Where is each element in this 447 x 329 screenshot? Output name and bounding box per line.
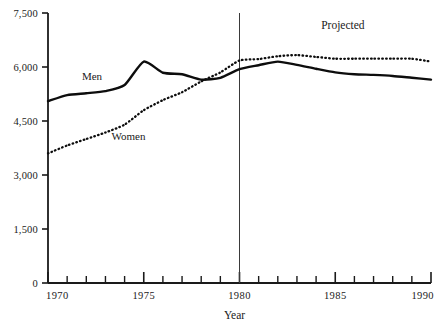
annotation-group: ProjectedMenWomen <box>82 19 365 142</box>
x-tick-label-1985: 1985 <box>324 290 347 301</box>
x-tick-label-group: 19701975198019851990 <box>46 290 434 301</box>
women-label: Women <box>111 130 145 142</box>
y-axis: 01,5003,0004,5006,0007,500 <box>13 8 48 289</box>
y-tick-label-3000: 3,000 <box>13 170 38 181</box>
y-tick-label-0: 0 <box>33 278 38 289</box>
y-tick-label-7500: 7,500 <box>13 8 38 19</box>
men-label: Men <box>82 70 103 82</box>
x-tick-label-1990: 1990 <box>411 290 434 301</box>
chart-figure: 01,5003,0004,5006,0007,500 1970197519801… <box>0 0 447 329</box>
x-tick-label-1975: 1975 <box>132 290 155 301</box>
y-tick-label-1500: 1,500 <box>13 224 38 235</box>
y-tick-label-6000: 6,000 <box>13 62 38 73</box>
x-axis-title: Year <box>224 309 245 321</box>
x-tick-label-1980: 1980 <box>228 290 251 301</box>
y-tick-label-group: 01,5003,0004,5006,0007,500 <box>13 8 38 289</box>
line-chart: 01,5003,0004,5006,0007,500 1970197519801… <box>0 0 447 329</box>
projected-label: Projected <box>321 19 365 32</box>
y-tick-label-4500: 4,500 <box>13 116 38 127</box>
x-tick-label-1970: 1970 <box>46 290 69 301</box>
